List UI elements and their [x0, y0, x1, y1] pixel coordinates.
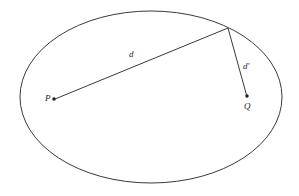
segment-d — [55, 28, 228, 99]
label-d: d — [129, 50, 134, 59]
diagram-canvas: d d′ P Q — [0, 0, 299, 196]
point-p-dot — [52, 97, 55, 100]
label-point-p: P — [45, 94, 51, 103]
point-q-dot — [245, 94, 248, 97]
label-point-q: Q — [244, 102, 251, 111]
label-d-prime: d′ — [243, 62, 249, 71]
label-d-prime-mark: ′ — [248, 61, 250, 71]
